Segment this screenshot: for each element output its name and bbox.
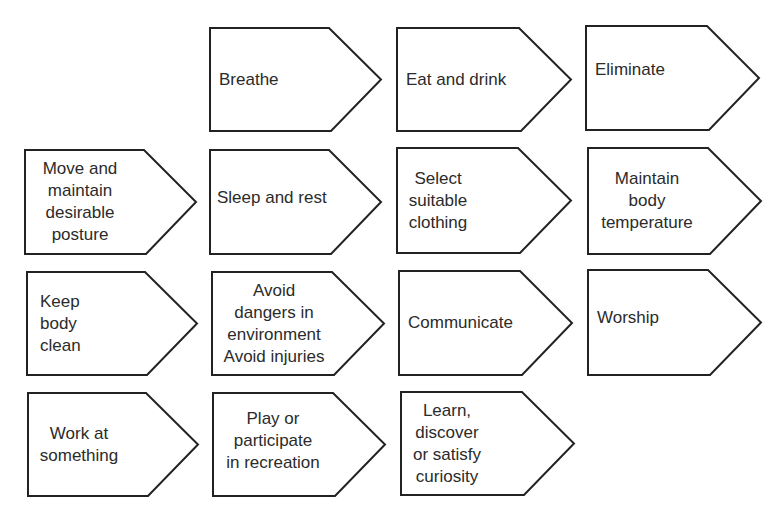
node-label-line: discover (406, 422, 488, 444)
node-label-line: clothing (404, 212, 472, 234)
node-label: Selectsuitableclothing (404, 147, 472, 254)
node-label-line: Maintain (597, 168, 697, 190)
node-move-and-maintain-desirable-posture: Move andmaintaindesirableposture (24, 149, 197, 255)
node-label-line: participate (220, 430, 326, 452)
node-label-line: maintain (30, 180, 130, 202)
node-label-line: Move and (30, 158, 130, 180)
node-label-line: or satisfy (406, 444, 488, 466)
node-eliminate: Eliminate (585, 25, 760, 131)
node-label: Move andmaintaindesirableposture (30, 149, 130, 255)
node-communicate: Communicate (398, 270, 573, 376)
node-label: Work atsomething (35, 392, 123, 497)
node-label-line: Eat and drink (406, 69, 526, 91)
node-label-line: curiosity (406, 466, 488, 488)
node-label: Breathe (219, 27, 329, 132)
node-worship: Worship (587, 269, 762, 376)
node-label-line: dangers in (215, 302, 333, 324)
node-label-line: Communicate (408, 312, 528, 334)
needs-diagram: BreatheEat and drinkEliminateMove andmai… (0, 0, 784, 526)
node-label: Sleep and rest (217, 145, 347, 251)
node-label-line: posture (30, 224, 130, 246)
node-learn-discover-satisfy-curiosity: Learn,discoveror satisfycuriosity (400, 391, 575, 496)
node-label-line: suitable (404, 190, 472, 212)
node-label-line: Play or (220, 408, 326, 430)
node-label-line: environment (215, 324, 333, 346)
node-maintain-body-temperature: Maintainbodytemperature (587, 147, 762, 255)
node-label-line: Breathe (219, 69, 329, 91)
node-eat-and-drink: Eat and drink (396, 27, 572, 132)
node-label: Keepbodyclean (40, 271, 100, 376)
node-label-line: Eliminate (595, 59, 705, 81)
node-label: Avoiddangers inenvironmentAvoid injuries (215, 271, 333, 376)
node-label-line: Select (404, 168, 472, 190)
node-label-line: temperature (597, 212, 697, 234)
node-label: Worship (597, 264, 697, 371)
node-sleep-and-rest: Sleep and rest (209, 149, 382, 255)
node-label-line: Sleep and rest (217, 187, 347, 209)
node-label-line: Keep (40, 291, 100, 313)
node-label-line: body (40, 313, 100, 335)
node-keep-body-clean: Keepbodyclean (26, 271, 198, 376)
node-label-line: Learn, (406, 400, 488, 422)
node-label: Eat and drink (406, 27, 526, 132)
node-label: Maintainbodytemperature (597, 147, 697, 255)
node-label: Communicate (408, 270, 528, 376)
node-select-suitable-clothing: Selectsuitableclothing (396, 147, 572, 254)
node-breathe: Breathe (209, 27, 382, 132)
node-label: Learn,discoveror satisfycuriosity (406, 391, 488, 496)
node-label: Eliminate (595, 17, 705, 123)
node-label-line: Avoid (215, 280, 333, 302)
node-label-line: Work at (35, 423, 123, 445)
node-label-line: Avoid injuries (215, 346, 333, 368)
node-label-line: in recreation (220, 452, 326, 474)
node-label-line: Worship (597, 307, 697, 329)
node-label-line: clean (40, 335, 100, 357)
node-label-line: body (597, 190, 697, 212)
node-play-or-participate-in-recreation: Play orparticipatein recreation (212, 392, 386, 497)
node-label-line: desirable (30, 202, 130, 224)
node-label-line: something (35, 445, 123, 467)
node-work-at-something: Work atsomething (27, 392, 199, 497)
node-label: Play orparticipatein recreation (220, 388, 326, 493)
node-avoid-dangers-avoid-injuries: Avoiddangers inenvironmentAvoid injuries (211, 271, 385, 376)
